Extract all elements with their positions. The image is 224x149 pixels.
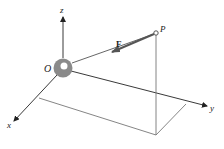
point-p-label: P (159, 24, 166, 34)
x-axis-label: x (6, 120, 11, 130)
plane-edge-foot-to-y (156, 104, 186, 135)
force-label: F (116, 39, 122, 49)
plane-edge-x-to-foot (39, 98, 156, 135)
y-axis-label: y (209, 103, 214, 113)
point-p-marker (154, 31, 158, 35)
x-axis (14, 75, 57, 121)
sphere-highlight (61, 63, 68, 70)
force-diagram: z x y O P F (0, 0, 224, 149)
base-plane (39, 98, 186, 135)
z-axis-label: z (59, 5, 64, 15)
origin-sphere (54, 59, 73, 78)
y-axis (71, 71, 207, 106)
origin-label: O (44, 63, 51, 74)
